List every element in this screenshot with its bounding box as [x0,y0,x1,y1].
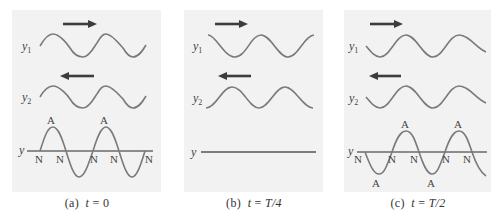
node-label: N [463,153,471,165]
node-label: N [90,153,98,165]
caption-panel-a: (a) t = 0 [17,196,157,211]
resultant-label: y [190,145,197,159]
standing-wave-diagram: y1 y2 y A A N N N N N y1 [0,0,503,219]
caption-variable: t [86,196,90,210]
arrow-left-icon [369,72,401,80]
antinode-label: A [100,114,108,126]
antinode-label: A [454,118,462,130]
node-label: N [56,153,64,165]
resultant-label: y [347,144,354,158]
caption-variable: t [248,196,252,210]
caption-panel-b: (b) t = T/4 [184,196,324,211]
wave1-curve [366,35,486,57]
arrow-right-icon [370,20,403,28]
node-label: N [110,153,118,165]
caption-value: T/4 [265,196,282,210]
caption-prefix: (a) [65,196,79,210]
panel-b: y1 y2 y [190,20,316,159]
node-label: N [145,153,153,165]
resultant-label: y [18,143,25,157]
wave1-curve [208,35,314,57]
wave2-curve [366,86,486,108]
wave2-label: y2 [21,90,31,106]
wave1-label: y1 [192,39,202,55]
resultant-curve [40,127,145,177]
node-label: N [442,153,450,165]
wave2-curve [40,86,146,108]
arrow-right-icon [63,20,97,28]
wave2-curve [206,87,313,108]
antinode-label: A [401,118,409,130]
node-label: N [354,153,362,165]
caption-value: T/2 [429,196,446,210]
caption-variable: t [411,196,415,210]
node-label: N [410,153,418,165]
caption-equals: = [255,196,262,210]
caption-equals: = [418,196,425,210]
antinode-label: A [427,177,435,189]
node-label: N [35,153,43,165]
caption-prefix: (c) [390,196,404,210]
caption-panel-c: (c) t = T/2 [348,196,488,211]
node-label: N [388,153,396,165]
antinode-label: A [372,177,380,189]
caption-prefix: (b) [226,196,241,210]
antinode-label: A [47,114,55,126]
wave2-label: y2 [192,91,202,107]
panel-c: y1 y2 y A A A A N N N N N [347,20,487,189]
arrow-left-icon [60,72,94,80]
wave1-label: y1 [348,39,358,55]
wave1-curve [40,34,146,57]
caption-equals: = [93,196,100,210]
wave2-label: y2 [348,91,358,107]
arrow-left-icon [218,72,251,80]
panel-a: y1 y2 y A A N N N N N [18,20,153,177]
wave1-label: y1 [21,39,31,55]
caption-value: 0 [103,196,109,210]
arrow-right-icon [215,20,248,28]
